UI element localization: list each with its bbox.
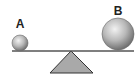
sphere-a <box>12 35 28 51</box>
label-a: A <box>16 17 25 31</box>
balance-diagram: A B <box>0 0 140 78</box>
sphere-b <box>102 18 134 50</box>
label-b: B <box>114 4 123 18</box>
fulcrum-triangle <box>50 51 93 73</box>
